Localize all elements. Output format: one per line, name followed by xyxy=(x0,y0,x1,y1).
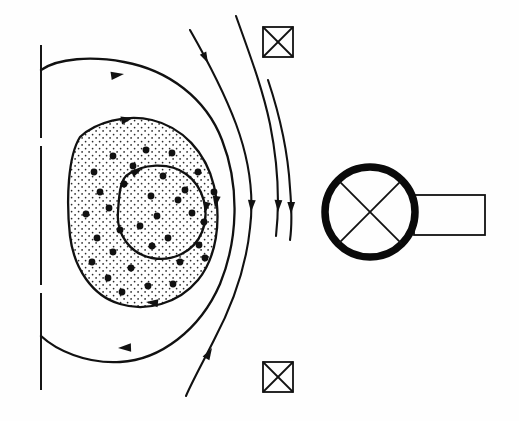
core-dot xyxy=(201,219,208,226)
core-dot xyxy=(170,281,177,288)
core-dot xyxy=(89,259,96,266)
core-dot xyxy=(117,227,124,234)
core-dot xyxy=(148,193,155,200)
core-dot xyxy=(154,213,161,220)
core-dot xyxy=(211,189,218,196)
core-dot xyxy=(145,283,152,290)
figure-root xyxy=(0,0,519,421)
core-dot xyxy=(121,181,128,188)
core-dot xyxy=(128,265,135,272)
core-dot xyxy=(143,147,150,154)
core-dot xyxy=(97,189,104,196)
core-dot xyxy=(110,153,117,160)
core-dot xyxy=(119,289,126,296)
core-dot xyxy=(169,150,176,157)
core-dot xyxy=(202,255,209,262)
core-dot xyxy=(83,211,90,218)
core-dot xyxy=(106,205,113,212)
vortex-streamline-diagram xyxy=(0,0,519,421)
core-dot xyxy=(94,235,101,242)
core-dot xyxy=(110,249,117,256)
core-dot xyxy=(91,169,98,176)
core-dot xyxy=(105,275,112,282)
core-dot xyxy=(175,197,182,204)
core-dot xyxy=(182,187,189,194)
core-dot xyxy=(177,259,184,266)
core-dot xyxy=(160,173,167,180)
core-dot xyxy=(165,235,172,242)
core-dot xyxy=(130,163,137,170)
core-dot xyxy=(149,243,156,250)
core-dot xyxy=(137,223,144,230)
core-dot xyxy=(189,210,196,217)
core-dot xyxy=(195,169,202,176)
core-dot xyxy=(196,242,203,249)
